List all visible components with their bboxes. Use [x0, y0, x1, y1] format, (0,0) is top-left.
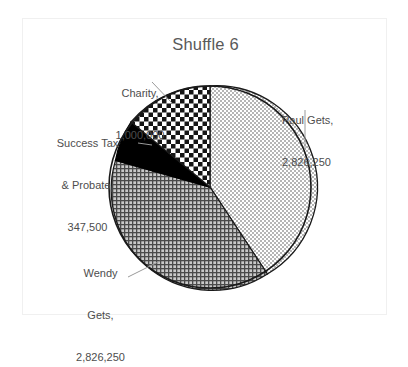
paul-label-line2: 2,826,250 [282, 155, 382, 169]
success-label-line3: 347,500 [30, 220, 145, 234]
wendy-label-line2: Gets, [48, 308, 153, 322]
charity-label-line1: Charity, [95, 86, 185, 100]
success-label-line1: Success Tax [30, 136, 145, 150]
wendy-label-line1: Wendy [48, 266, 153, 280]
wendy-label-line3: 2,826,250 [48, 350, 153, 364]
success-label-line2: & Probate, [30, 178, 145, 192]
slice-label-paul: Paul Gets, 2,826,250 [282, 85, 382, 183]
slice-label-success-tax: Success Tax & Probate, 347,500 [30, 108, 145, 248]
slice-label-wendy: Wendy Gets, 2,826,250 [48, 238, 153, 367]
paul-label-line1: Paul Gets, [282, 113, 382, 127]
